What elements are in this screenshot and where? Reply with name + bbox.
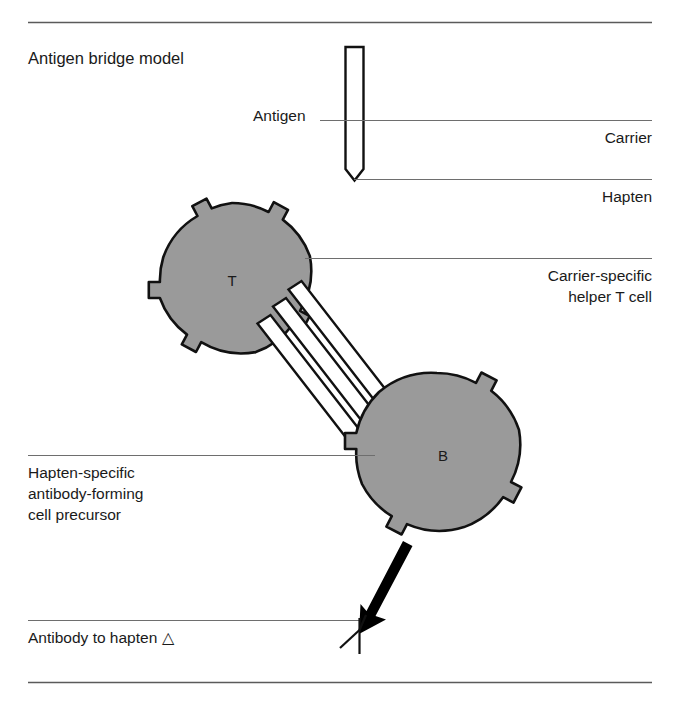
b-precursor-label-line3: cell precursor bbox=[28, 506, 121, 523]
helper-t-cell-label-line2: helper T cell bbox=[568, 288, 652, 305]
hapten-label: Hapten bbox=[602, 188, 652, 205]
b-cell-glyph: B bbox=[438, 447, 448, 464]
antigen-bridge-diagram: Antigen bridge model Antigen Carrier Hap… bbox=[0, 0, 681, 709]
antibody-output-label: Antibody to hapten △ bbox=[28, 629, 175, 646]
antibody-arm-left bbox=[340, 630, 360, 648]
t-cell-glyph: T bbox=[227, 272, 236, 289]
antigen-molecule-shape bbox=[346, 47, 364, 181]
figure-title: Antigen bridge model bbox=[28, 49, 184, 67]
b-precursor-label-line1: Hapten-specific bbox=[28, 464, 135, 481]
carrier-label: Carrier bbox=[605, 129, 652, 146]
helper-t-cell-label-line1: Carrier-specific bbox=[548, 267, 652, 284]
figure-root: Antigen bridge model Antigen Carrier Hap… bbox=[0, 0, 681, 709]
antigen-label: Antigen bbox=[253, 107, 306, 124]
b-precursor-label-line2: antibody-forming bbox=[28, 485, 143, 502]
secretion-arrow bbox=[359, 541, 413, 634]
